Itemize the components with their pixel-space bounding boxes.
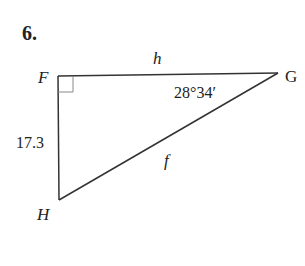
- problem-number: 6.: [22, 22, 37, 44]
- side-gh: [59, 73, 278, 200]
- side-fg: [58, 73, 278, 76]
- side-fh: [58, 76, 59, 200]
- right-angle-marker: [58, 76, 73, 92]
- vertex-label-g: G: [285, 67, 297, 86]
- side-label-h: h: [153, 49, 162, 68]
- angle-label-g: 28°34′: [174, 84, 216, 101]
- vertex-label-f: F: [37, 68, 49, 87]
- triangle-diagram: 6. F G H h 17.3 f 28°34′: [0, 0, 305, 266]
- vertex-label-h: H: [36, 205, 51, 224]
- side-label-17-3: 17.3: [16, 134, 44, 151]
- side-label-f: f: [164, 151, 171, 170]
